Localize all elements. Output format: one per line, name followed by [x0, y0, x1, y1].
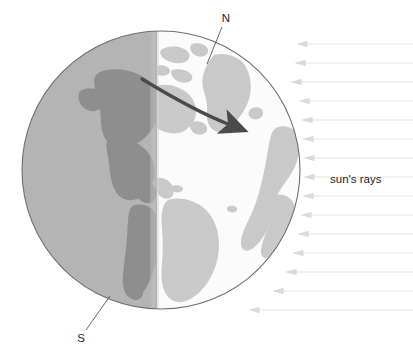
suns-rays-label: sun's rays [330, 173, 382, 185]
south-leader-line [86, 296, 110, 330]
diagram-canvas: N S sun's rays [0, 0, 413, 360]
south-pole-label: S [77, 332, 85, 344]
earth-sun-rays-diagram: N S sun's rays [0, 0, 413, 360]
north-pole-label: N [222, 12, 230, 24]
terminator-band [150, 0, 159, 360]
globe [0, 0, 300, 360]
